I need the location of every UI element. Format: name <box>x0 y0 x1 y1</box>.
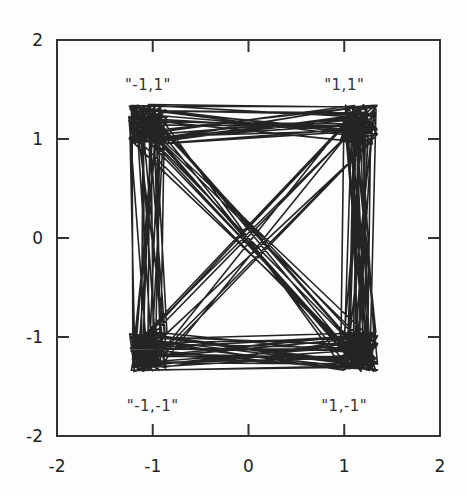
y-tick-label: 2 <box>32 30 43 50</box>
y-tick-label: 0 <box>32 228 43 248</box>
y-tick-label: -1 <box>26 327 43 347</box>
annotation-top-right: "1,1" <box>324 76 364 94</box>
annotation-bottom-right: "1,-1" <box>321 397 367 415</box>
x-tick-label: 2 <box>435 456 446 476</box>
y-tick-label: -2 <box>26 426 43 446</box>
x-tick-label: 1 <box>339 456 350 476</box>
y-axis-tick-labels: -2-1012 <box>26 30 43 446</box>
trajectory-line <box>129 105 378 372</box>
trajectory-series <box>129 105 378 372</box>
x-tick-label: -1 <box>144 456 161 476</box>
plot-area: -2-1012 -2-1012 "-1,1" "1,1" "-1,-1" "1,… <box>0 0 467 496</box>
x-axis-tick-labels: -2-1012 <box>49 456 446 476</box>
y-tick-label: 1 <box>32 129 43 149</box>
annotation-top-left: "-1,1" <box>125 76 171 94</box>
x-tick-label: -2 <box>49 456 66 476</box>
x-tick-label: 0 <box>243 456 254 476</box>
annotation-bottom-left: "-1,-1" <box>127 397 179 415</box>
chart-figure: -2-1012 -2-1012 "-1,1" "1,1" "-1,-1" "1,… <box>0 0 467 496</box>
